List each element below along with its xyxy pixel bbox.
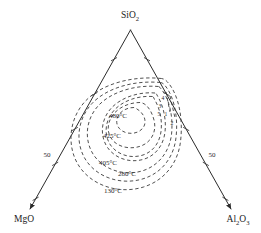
vertex-label-sio2-main: SiO <box>121 10 136 20</box>
edge-tick-label-left-50: 50 <box>44 151 52 159</box>
edge-tick-label-right-50: 50 <box>209 151 217 159</box>
contour-label-480c: 480°C <box>109 112 127 120</box>
vertex-label-al2o3-sub-b: 3 <box>246 219 250 226</box>
micro-label-4: 4 <box>162 95 165 101</box>
vertex-label-mgo-main: MgO <box>14 214 34 224</box>
contour-480c-outer <box>108 103 155 148</box>
contour-label-425c: 425°C <box>103 132 121 140</box>
micro-label-5: 5 <box>158 111 161 117</box>
vertex-label-al2o3-main-a: Al <box>227 214 237 224</box>
vertex-label-al2o3: Al2O3 <box>227 214 251 226</box>
micro-label-2: 2 <box>171 120 174 126</box>
vertex-label-sio2-sub: 2 <box>136 15 139 22</box>
ternary-diagram-figure: SiO2 MgO Al2O3 50 50 480°C 425°C 405°C 2… <box>0 0 261 233</box>
micro-label-3: 3 <box>159 103 162 109</box>
axis-ticks-left <box>33 58 117 201</box>
vertex-label-sio2: SiO2 <box>121 10 139 22</box>
diagram-canvas: SiO2 MgO Al2O3 50 50 480°C 425°C 405°C 2… <box>0 0 261 233</box>
contour-label-405c: 405°C <box>99 159 117 167</box>
vertex-label-mgo: MgO <box>14 214 34 224</box>
axis-ticks-right <box>144 58 228 201</box>
micro-label-1: 1 <box>165 111 168 117</box>
contour-label-130c: 130°C <box>104 187 122 195</box>
contour-label-280c: 280°C <box>118 170 136 178</box>
